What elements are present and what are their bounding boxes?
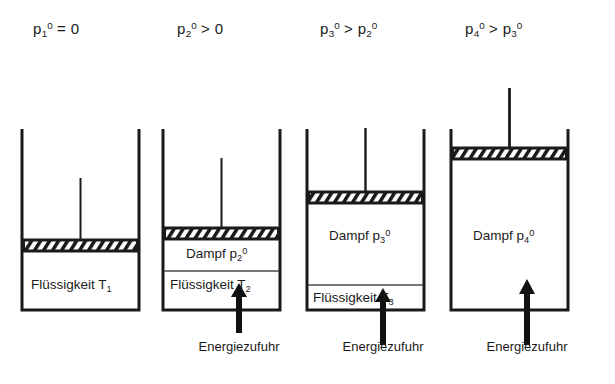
cylinder-stage-2 [163,129,280,333]
liquid-label-3-text: Flüssigkeit T3 [313,290,394,305]
liquid-label-2-text: Flüssigkeit T2 [170,277,251,292]
liquid-label-stage-3: Flüssigkeit T3 [313,290,394,307]
diagram-canvas [0,0,615,384]
energy-label-stage-2: Energiezufuhr [178,339,300,354]
liquid-label-stage-1: Flüssigkeit T1 [31,277,112,294]
vapor-label-stage-3: Dampf p30 [329,228,390,245]
piston-3 [309,192,423,203]
vapor-label-stage-2: Dampf p20 [186,246,247,263]
piston-1 [24,240,138,251]
energy-label-stage-4: Energiezufuhr [466,339,588,354]
piston-4 [453,148,567,159]
vapor-label-2-text: Dampf p20 [186,246,247,261]
vapor-label-stage-4: Dampf p40 [473,228,534,245]
liquid-label-1-text: Flüssigkeit T1 [31,277,112,292]
cylinder-stage-4 [451,88,568,345]
vapor-label-3-text: Dampf p30 [329,228,390,243]
liquid-label-stage-2: Flüssigkeit T2 [170,277,251,294]
vapor-label-4-text: Dampf p40 [473,228,534,243]
energy-arrow-4 [519,279,535,345]
piston-2 [165,228,279,239]
energy-label-stage-3: Energiezufuhr [322,339,444,354]
vaporization-stages-diagram: p10 = 0 p20 > 0 p30 > p20 p40 > p30 [0,0,615,384]
